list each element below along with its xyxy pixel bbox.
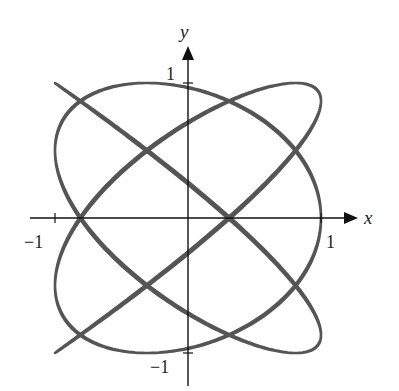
x-axis-label: x — [363, 207, 373, 228]
y-tick-label-neg: −1 — [150, 357, 169, 377]
y-tick-label-pos: 1 — [166, 64, 175, 84]
y-axis-arrow-icon — [182, 46, 194, 60]
x-tick-label-pos: 1 — [326, 232, 335, 252]
lissajous-plot: x y −1 1 1 −1 — [0, 0, 399, 391]
x-axis-arrow-icon — [344, 212, 358, 224]
x-tick-label-neg: −1 — [24, 232, 43, 252]
y-axis-label: y — [178, 21, 189, 42]
